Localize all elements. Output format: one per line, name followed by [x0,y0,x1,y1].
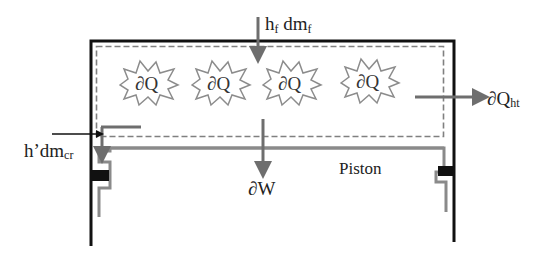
left-piston-ring [92,170,109,181]
svg-text:∂Q: ∂Q [356,71,379,92]
piston-label: Piston [339,159,382,178]
heat-release-bursts: ∂Q ∂Q ∂Q ∂Q [120,59,399,105]
heat-transfer-label: ∂Qht [487,88,520,110]
svg-text:∂Q: ∂Q [278,73,301,94]
burst-3: ∂Q [263,61,321,105]
svg-text:∂Q: ∂Q [207,73,230,94]
work-label: ∂W [248,178,275,199]
burst-4: ∂Q [341,59,399,103]
cylinder-diagram: ∂Q ∂Q ∂Q ∂Q hf dmf ∂Qht h’dmcr ∂W Piston [0,0,542,259]
svg-text:∂Q: ∂Q [135,73,158,94]
crevice-flow-label: h’dmcr [24,140,73,162]
burst-1: ∂Q [120,61,178,105]
right-piston-ring [438,166,453,176]
fuel-inflow-label: hf dmf [265,13,312,36]
burst-2: ∂Q [192,61,250,105]
